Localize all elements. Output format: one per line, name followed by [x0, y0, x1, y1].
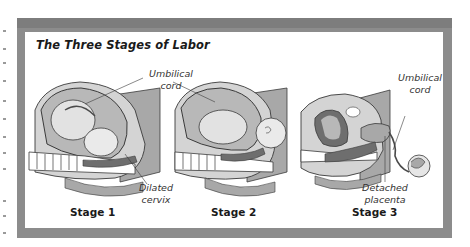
label-line: cord [141, 80, 201, 92]
figure-panel: The Three Stages of Labor [25, 32, 443, 228]
stage-2-fetus-body [199, 110, 247, 144]
stage-3-illustration [301, 90, 430, 190]
label-line: cord [392, 84, 448, 96]
margin-text-fragments [0, 0, 14, 247]
stage-3-placenta [361, 123, 390, 142]
stage-3-bladder [346, 107, 360, 117]
stage-2-fetus-head [256, 118, 286, 148]
stage-3-umbilical-cord-label: Umbilical cord [392, 72, 448, 96]
stage-1-dilated-cervix-label: Dilated cervix [131, 182, 181, 206]
label-line: Detached [355, 182, 415, 194]
stage-2-illustration [173, 82, 287, 196]
label-line: cervix [131, 194, 181, 206]
stage-3-label: Stage 3 [352, 206, 397, 218]
stage-1-umbilical-cord-label: Umbilical cord [141, 68, 201, 92]
stage-3-detached-placenta-label: Detached placenta [355, 182, 415, 206]
stage-3-cord [389, 132, 409, 172]
stage-1-fetus-head [84, 128, 118, 156]
stage-3-umbilical-leader [393, 116, 405, 150]
label-line: Umbilical [392, 72, 448, 84]
stage-1-illustration [29, 78, 160, 196]
label-line: Umbilical [141, 68, 201, 80]
stage-1-label: Stage 1 [70, 206, 115, 218]
label-line: Dilated [131, 182, 181, 194]
stage-2-label: Stage 2 [211, 206, 256, 218]
stage-2-lower-tissue [205, 178, 275, 196]
label-line: placenta [355, 194, 415, 206]
